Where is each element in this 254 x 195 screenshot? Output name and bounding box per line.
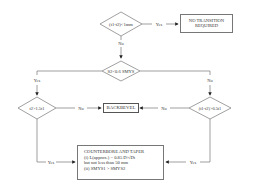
edge-label-d2-no: No: [207, 78, 213, 83]
edge-label-d1-yes: Yes: [156, 22, 163, 27]
counterbore-line4: (ii) SMYS1 > SMYS2: [84, 166, 163, 172]
backbevel-label: BACKBEVEL: [107, 105, 136, 110]
counterbore-box: COUNTERBORE AND TAPER (i) L(approx.) = 0…: [77, 145, 164, 180]
decision-d4-label: (t1-t2)>0.5t1: [199, 106, 222, 111]
edge-label-d2-yes: Yes: [34, 78, 41, 83]
no-transition-line2: REQUIRED: [181, 23, 232, 29]
backbevel-box: BACKBEVEL: [103, 103, 139, 113]
edge-label-d1-no: No: [118, 41, 124, 46]
edge-label-d3-no: No: [78, 106, 84, 111]
edge-label-d4-no: No: [161, 106, 167, 111]
no-transition-box: NO TRANSITION REQUIRED: [180, 14, 233, 33]
decision-d1-label: (t1-t2)<1mm: [109, 22, 133, 27]
decision-d2-label: S2<0.6 SMYS: [108, 69, 135, 74]
edge-label-d3-yes: Yes: [48, 160, 55, 165]
edge-label-d4-yes: Yes: [190, 160, 197, 165]
decision-d3-label: t2>1.5t1: [30, 106, 45, 111]
